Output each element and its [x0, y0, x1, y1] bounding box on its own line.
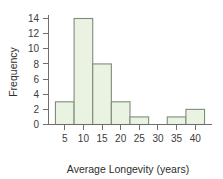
y-tick-label: 14 — [28, 13, 40, 24]
histogram-bar — [55, 102, 74, 125]
x-axis-title: Average Longevity (years) — [67, 163, 189, 175]
histogram-bar — [93, 64, 112, 125]
x-tick-label: 15 — [96, 133, 108, 144]
x-tick-label: 20 — [115, 133, 127, 144]
x-tick-label: 25 — [134, 133, 146, 144]
histogram-figure: 510152025303540 02468101214 Average Long… — [0, 0, 223, 179]
histogram-bar — [111, 102, 130, 125]
histogram-bar — [130, 117, 149, 125]
histogram-bar — [186, 109, 205, 124]
x-tick-label: 10 — [78, 133, 90, 144]
y-tick-label: 4 — [33, 89, 39, 100]
y-tick-label: 12 — [28, 28, 40, 39]
x-tick-label: 35 — [171, 133, 183, 144]
y-tick-label: 8 — [33, 59, 39, 70]
x-tick-label: 30 — [152, 133, 164, 144]
x-tick-label: 5 — [62, 133, 68, 144]
histogram-bar — [167, 117, 186, 125]
y-tick-label: 6 — [33, 74, 39, 85]
y-axis-title: Frequency — [7, 46, 19, 96]
y-tick-label: 10 — [28, 43, 40, 54]
histogram-bar — [74, 19, 93, 125]
y-tick-label: 0 — [33, 119, 39, 130]
x-tick-label: 40 — [190, 133, 202, 144]
histogram-plot: 510152025303540 02468101214 Average Long… — [0, 0, 223, 179]
y-tick-label: 2 — [33, 104, 39, 115]
